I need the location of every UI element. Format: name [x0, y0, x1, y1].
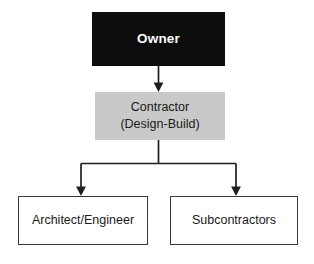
node-owner: Owner	[92, 12, 225, 66]
edge-branch-to-subcontractors	[231, 164, 241, 197]
org-chart-diagram: Owner Contractor (Design-Build) Architec…	[0, 0, 314, 264]
edge-contractor-to-branch-bar	[81, 140, 236, 164]
node-architect-engineer: Architect/Engineer	[18, 196, 148, 245]
node-architect-engineer-label: Architect/Engineer	[32, 213, 134, 228]
node-contractor-label-line1: Contractor	[131, 100, 189, 115]
node-contractor: Contractor (Design-Build)	[95, 92, 225, 140]
edge-branch-to-architect	[76, 164, 86, 197]
node-owner-label: Owner	[137, 31, 180, 47]
node-subcontractors: Subcontractors	[170, 196, 298, 245]
node-subcontractors-label: Subcontractors	[192, 213, 276, 228]
node-contractor-label-line2: (Design-Build)	[120, 117, 199, 132]
edge-owner-to-contractor	[154, 66, 164, 92]
